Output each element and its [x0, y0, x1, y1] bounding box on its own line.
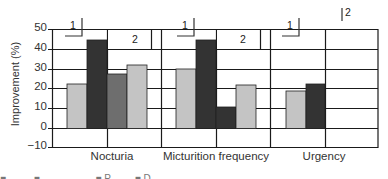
bar-urgency-1	[286, 91, 306, 129]
bar-micturition-1	[176, 69, 196, 129]
bars-nocturia	[67, 40, 147, 129]
bar-urgency-2	[306, 84, 325, 129]
annotation-1-micturition: 1	[182, 19, 188, 31]
annotation-2-nocturia: 2	[132, 33, 138, 45]
category-label-nocturia: Nocturia	[62, 150, 162, 162]
annotation-box-nocturia	[108, 30, 151, 49]
category-label-micturition-frequency: Micturition frequency	[156, 150, 276, 162]
annotation-1-urgency: 1	[287, 19, 293, 31]
category-label-urgency: Urgency	[270, 150, 378, 162]
bar-micturition-2	[196, 40, 216, 129]
bar-nocturia-2	[87, 40, 107, 129]
bar-micturition-3	[216, 107, 236, 129]
bracket-markers	[65, 8, 342, 36]
legend-clipped: ■ ........ ■ ......... ........ ■ P.....…	[0, 172, 388, 179]
bar-nocturia-1	[67, 84, 87, 129]
annotation-1-nocturia: 1	[70, 19, 76, 31]
annotation-2-micturition: 2	[240, 33, 246, 45]
annotation-box-micturition	[217, 30, 260, 49]
bars-urgency	[286, 84, 325, 129]
annotation-2-top-right: 2	[345, 6, 351, 18]
bar-nocturia-3	[107, 74, 127, 129]
bars-micturition	[176, 40, 256, 129]
bar-micturition-4	[236, 85, 256, 129]
bar-nocturia-4	[127, 65, 147, 129]
